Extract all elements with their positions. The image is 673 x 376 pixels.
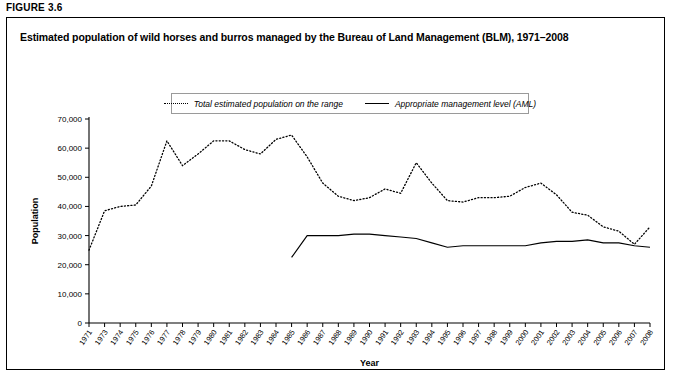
series-total-estimated-population [89,135,650,250]
line-chart: 010,00020,00030,00040,00050,00060,00070,… [7,18,666,371]
x-tick-label: 1975 [124,328,141,347]
x-tick-label: 2004 [576,328,593,347]
x-tick-label: 1993 [404,328,421,347]
x-tick-label: 1999 [498,328,515,347]
y-tick-label: 30,000 [58,232,83,241]
y-tick-label: 10,000 [58,290,83,299]
y-tick-label: 70,000 [58,115,83,124]
y-axis-title: Population [30,198,40,245]
x-tick-label: 1994 [420,328,437,347]
y-axis: 010,00020,00030,00040,00050,00060,00070,… [58,115,89,328]
x-tick-label: 1971 [77,328,94,347]
y-tick-label: 50,000 [58,173,83,182]
y-tick-label: 20,000 [58,261,83,270]
figure-label: FIGURE 3.6 [6,2,62,13]
y-tick-label: 60,000 [58,144,83,153]
x-tick-label: 1996 [451,328,468,347]
x-tick-label: 1973 [93,328,110,347]
x-tick-label: 1985 [280,328,297,347]
x-tick-label: 1991 [373,328,390,347]
series-appropriate-management-level [292,234,650,257]
x-tick-label: 1977 [155,328,172,347]
x-tick-label: 2001 [529,328,546,347]
x-tick-label: 1990 [358,328,375,347]
x-tick-label: 2005 [591,328,608,347]
x-tick-label: 1986 [295,328,312,347]
x-tick-label: 1984 [264,328,281,347]
x-tick-label: 1988 [327,328,344,347]
y-tick-label: 0 [78,319,83,328]
x-tick-label: 1974 [108,328,125,347]
y-tick-label: 40,000 [58,202,83,211]
x-tick-label: 1981 [217,328,234,347]
x-tick-label: 1995 [436,328,453,347]
x-tick-label: 2002 [545,328,562,347]
figure-box: Estimated population of wild horses and … [6,17,665,370]
x-tick-label: 1989 [342,328,359,347]
x-tick-label: 1976 [140,328,157,347]
x-tick-label: 1983 [249,328,266,347]
x-tick-label: 1982 [233,328,250,347]
x-tick-label: 1978 [171,328,188,347]
x-tick-label: 2006 [607,328,624,347]
x-axis-title: Year [360,358,380,368]
plot-area: 010,00020,00030,00040,00050,00060,00070,… [7,18,666,371]
x-tick-label: 2003 [560,328,577,347]
x-tick-label: 1987 [311,328,328,347]
x-tick-label: 1997 [467,328,484,347]
x-tick-label: 2007 [623,328,640,347]
x-axis: 1971197319741975197619771978197919801981… [77,323,655,347]
x-tick-label: 2008 [638,328,655,347]
x-tick-label: 1980 [202,328,219,347]
x-tick-label: 1979 [186,328,203,347]
x-tick-label: 2000 [514,328,531,347]
x-tick-label: 1992 [389,328,406,347]
x-tick-label: 1998 [482,328,499,347]
